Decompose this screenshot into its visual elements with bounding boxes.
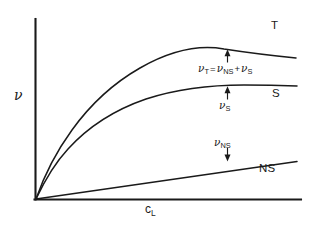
y-axis-label: ν — [14, 88, 23, 102]
plot-canvas — [0, 0, 316, 229]
curve-label-total: T — [271, 20, 278, 32]
arrow-nu-nonsaturable — [225, 148, 231, 162]
binding-curve-figure: ν cL T S NS νT=νNS+νS νS νNS — [0, 0, 316, 229]
curve-label-nonsaturable: NS — [259, 163, 275, 175]
annotation-saturable-nu-sub: S — [225, 104, 230, 113]
x-axis-label: cL — [145, 203, 156, 215]
curve-nonsaturable-NS — [36, 162, 297, 200]
annotation-saturable-component: νS — [219, 100, 230, 111]
annotation-equals-sign: = — [209, 63, 217, 74]
curve-label-saturable: S — [272, 88, 280, 100]
annotation-term2-nu: ν — [241, 62, 247, 74]
curve-total-T — [36, 48, 296, 199]
x-axis-label-subscript: L — [151, 208, 156, 218]
arrow-nu-total — [225, 49, 231, 62]
annotation-term2-nu-sub: S — [248, 67, 253, 76]
annotation-term1-nu-sub: NS — [223, 67, 233, 76]
annotation-plus-sign: + — [233, 63, 241, 74]
annotation-total-relation: νT=νNS+νS — [198, 63, 253, 74]
annotation-nonsaturable-component: νNS — [214, 137, 231, 148]
annotation-total-nu-sub: T — [204, 67, 209, 76]
arrow-nu-saturable — [225, 86, 231, 99]
curve-saturable-S — [36, 85, 297, 199]
annotation-nonsaturable-nu-sub: NS — [220, 141, 230, 150]
